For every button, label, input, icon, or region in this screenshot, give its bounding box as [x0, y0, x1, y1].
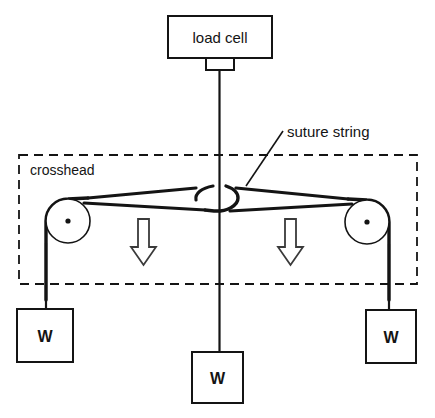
suture-test-diagram: load cell crosshead [0, 0, 435, 418]
diagram-canvas: load cell crosshead [0, 0, 435, 418]
string-right-lower-strand [230, 204, 352, 211]
suture-string-group [46, 186, 389, 300]
suture-string-leader-line [246, 131, 283, 186]
weight-center-group: W [192, 352, 243, 403]
suture-string-label: suture string [287, 123, 370, 140]
load-cell-label: load cell [192, 29, 247, 46]
weight-right-group: W [366, 310, 416, 363]
pulley-left-hub-icon [65, 218, 70, 223]
string-left-upper-strand [88, 188, 196, 198]
hanging-strings-group [46, 243, 389, 310]
string-right-upper-strand [236, 188, 348, 199]
weight-label-left: W [37, 328, 53, 345]
load-cell-group: load cell [168, 16, 272, 70]
weight-label-center: W [210, 370, 226, 387]
pulley-right-hub-icon [364, 219, 369, 224]
load-cell-tab [206, 58, 234, 70]
arrow-down-icon-right [278, 219, 303, 265]
string-knot-left-arc [196, 186, 213, 200]
weight-label-right: W [383, 329, 399, 346]
motion-arrow-left [131, 219, 156, 265]
weight-left-group: W [17, 309, 73, 362]
arrow-down-icon-left [131, 219, 156, 265]
string-knot-right-arc [205, 186, 238, 211]
motion-arrow-right [278, 219, 303, 265]
crosshead-label: crosshead [30, 162, 95, 178]
string-left-lower-strand [84, 203, 205, 210]
